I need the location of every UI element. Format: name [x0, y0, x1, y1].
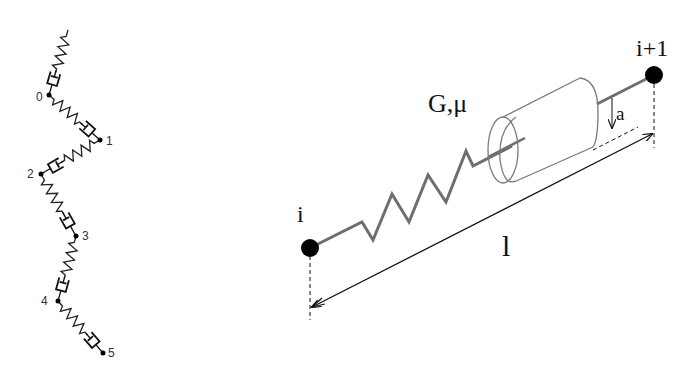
chain-spring — [61, 140, 100, 162]
material-label: G,μ — [428, 89, 467, 118]
chain-node-label-4: 4 — [41, 294, 48, 308]
chain-dashpot-rod — [54, 70, 56, 77]
length-arrow-head-start — [312, 298, 325, 307]
chain-dashpot-rod — [58, 161, 64, 164]
chain-spring — [52, 30, 68, 73]
length-label: l — [502, 229, 510, 262]
chain-dashpot-housing — [47, 71, 60, 86]
connector-rod — [597, 75, 654, 104]
chain-dashpot-rod — [63, 276, 65, 283]
chain-spring — [58, 301, 88, 335]
left-chain — [39, 30, 106, 356]
chain-node — [39, 172, 44, 177]
node-i-plus-1 — [645, 66, 663, 84]
chain-dashpot-housing — [56, 278, 69, 292]
element-diagram: a i i+1 G,μ l — [297, 35, 668, 320]
chain-node — [101, 351, 106, 356]
chain-dashpot-rod — [86, 333, 91, 338]
chain-dashpot-rod — [63, 212, 66, 218]
figure-canvas: 0 1 2 3 4 5 a i — [0, 0, 699, 376]
dashpot-rod — [488, 138, 525, 157]
node-i-label: i — [297, 201, 304, 227]
chain-node-label-1: 1 — [106, 134, 113, 148]
node-i — [301, 239, 319, 257]
radius-label: a — [616, 103, 625, 124]
chain-dashpot-rod — [81, 123, 86, 128]
chain-node-label-0: 0 — [36, 90, 43, 104]
cylinder-back-edge — [580, 78, 598, 147]
cylinder-top-edge — [503, 78, 580, 117]
chain-dashpot-housing — [48, 158, 64, 173]
cylinder-bottom-edge — [514, 147, 593, 182]
chain-node-label-5: 5 — [108, 346, 115, 360]
radius-dashed-line — [593, 127, 638, 150]
chain-node — [56, 299, 61, 304]
chain-dashpot-housing — [60, 212, 75, 228]
chain-node-label-2: 2 — [27, 167, 34, 181]
chain-node — [74, 234, 79, 239]
chain-spring — [49, 95, 83, 125]
chain-spring — [61, 236, 77, 279]
chain-node — [98, 138, 103, 143]
chain-node-label-3: 3 — [82, 229, 89, 243]
spring — [310, 146, 512, 248]
chain-spring — [41, 174, 64, 215]
dashpot-cylinder — [488, 78, 598, 183]
node-i-plus-1-label: i+1 — [636, 35, 668, 61]
chain-node — [47, 93, 52, 98]
